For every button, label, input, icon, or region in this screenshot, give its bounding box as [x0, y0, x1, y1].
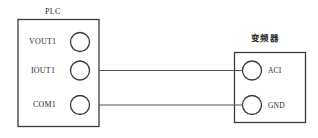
plc-title: PLC [45, 8, 61, 16]
inverter-terminal-label-aci: ACI [268, 67, 282, 75]
wiring-diagram: PLC VOUT1 IOUT1 COM1 变频器 ACI GND [0, 0, 318, 138]
plc-terminal-vout1-circle[interactable] [71, 33, 90, 52]
inverter-terminal-aci-circle[interactable] [243, 61, 262, 80]
inverter-terminal-label-gnd: GND [268, 102, 285, 110]
plc-terminal-label-iout1: IOUT1 [31, 67, 55, 75]
plc-terminal-label-vout1: VOUT1 [29, 38, 56, 46]
plc-terminal-iout1-circle[interactable] [71, 61, 90, 80]
inverter-terminal-gnd-circle[interactable] [243, 96, 262, 115]
plc-terminal-label-com1: COM1 [33, 101, 56, 109]
inverter-title: 变频器 [251, 34, 279, 43]
plc-terminal-com1-circle[interactable] [71, 96, 90, 115]
